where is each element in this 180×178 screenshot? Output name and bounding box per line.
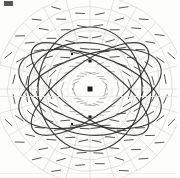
node-lower-left <box>71 123 73 125</box>
radial-field-diagram <box>0 0 180 178</box>
direction-tick-3-7 <box>66 137 75 138</box>
node-upper-left <box>71 53 73 55</box>
node-upper <box>89 60 92 63</box>
direction-tick-6-3 <box>139 158 148 159</box>
direction-tick-5-20 <box>132 28 141 29</box>
scan-artifact-mark <box>4 1 13 6</box>
direction-tick-4-6 <box>77 152 86 153</box>
node-center <box>88 87 93 92</box>
scan-edge-right <box>177 0 180 178</box>
direction-tick-5-6 <box>76 165 85 166</box>
direction-tick-6-2 <box>155 142 164 143</box>
figure-root <box>0 0 180 178</box>
node-lower <box>89 116 92 119</box>
